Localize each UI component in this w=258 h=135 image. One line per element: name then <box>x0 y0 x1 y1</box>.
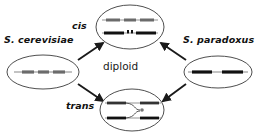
label-diploid: diploid <box>103 60 138 72</box>
edge-right-to-cis <box>161 43 186 60</box>
ellipse-trans-diploid <box>100 89 164 131</box>
node-right-parent <box>184 56 252 88</box>
edge-left-to-trans <box>78 84 103 101</box>
label-trans: trans <box>66 100 94 111</box>
cis-variant-marker-icon <box>131 30 133 33</box>
node-trans-diploid <box>100 89 164 131</box>
label-right-species: S. paradoxus <box>183 34 254 45</box>
edge-right-to-trans <box>163 84 186 101</box>
ellipse-cis-diploid <box>96 5 164 49</box>
diagram-canvas: S. cerevisiae S. paradoxus cis trans dip… <box>0 0 258 135</box>
label-left-species: S. cerevisiae <box>4 34 73 45</box>
node-left-parent <box>7 55 79 89</box>
label-cis: cis <box>72 20 87 31</box>
edge-left-to-cis <box>78 43 103 60</box>
cis-variant-marker-icon <box>127 30 129 33</box>
trans-factor-icon <box>140 108 144 112</box>
node-cis-diploid <box>96 5 164 49</box>
